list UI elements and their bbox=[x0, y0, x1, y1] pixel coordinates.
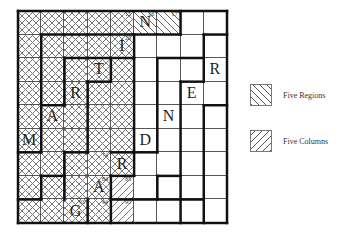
legend-label-five-columns: Five Columns bbox=[283, 137, 328, 146]
legend-label-five-regions: Five Regions bbox=[283, 91, 325, 100]
five-regions-swatch-icon bbox=[250, 84, 272, 106]
five-columns-swatch-icon bbox=[250, 130, 272, 152]
region-borders bbox=[18, 11, 227, 223]
